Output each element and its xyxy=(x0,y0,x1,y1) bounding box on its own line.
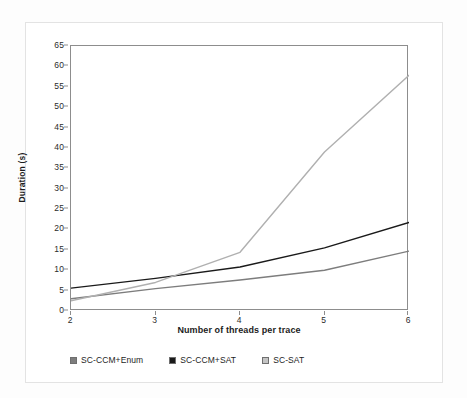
y-axis-ticks: 05101520253035404550556065 xyxy=(40,45,68,310)
x-tick-label: 5 xyxy=(321,315,326,325)
chart-legend: SC-CCM+EnumSC-CCM+SATSC-SAT xyxy=(70,352,370,368)
legend-swatch-icon xyxy=(70,357,77,364)
series-line-sc-ccm-sat xyxy=(71,223,409,289)
y-tick-mark xyxy=(64,289,68,290)
legend-item[interactable]: SC-SAT xyxy=(262,355,304,365)
chart-figure: Duration (s) 05101520253035404550556065 … xyxy=(0,0,467,398)
y-tick-label: 35 xyxy=(54,162,64,172)
y-tick-label: 55 xyxy=(54,81,64,91)
legend-label: SC-CCM+Enum xyxy=(81,355,143,365)
y-tick-mark xyxy=(64,310,68,311)
y-tick-label: 65 xyxy=(54,40,64,50)
legend-label: SC-SAT xyxy=(273,355,304,365)
x-tick-label: 2 xyxy=(68,315,73,325)
y-tick-label: 20 xyxy=(54,223,64,233)
y-tick-label: 50 xyxy=(54,101,64,111)
x-tick-mark xyxy=(407,311,408,315)
x-tick-mark xyxy=(324,311,325,315)
y-tick-label: 40 xyxy=(54,142,64,152)
y-tick-label: 60 xyxy=(54,60,64,70)
y-tick-label: 30 xyxy=(54,183,64,193)
y-tick-label: 10 xyxy=(54,264,64,274)
y-tick-mark xyxy=(64,208,68,209)
x-tick-mark xyxy=(239,311,240,315)
series-line-sc-ccm-enum xyxy=(71,251,409,299)
plot-lines xyxy=(71,46,409,311)
x-tick-label: 3 xyxy=(152,315,157,325)
y-tick-mark xyxy=(64,126,68,127)
y-tick-label: 25 xyxy=(54,203,64,213)
plot-area xyxy=(70,45,408,310)
y-tick-mark xyxy=(64,167,68,168)
legend-swatch-icon xyxy=(262,357,269,364)
x-tick-label: 6 xyxy=(406,315,411,325)
y-tick-label: 15 xyxy=(54,244,64,254)
y-tick-mark xyxy=(64,146,68,147)
y-tick-label: 45 xyxy=(54,122,64,132)
y-tick-mark xyxy=(64,85,68,86)
y-tick-mark xyxy=(64,228,68,229)
x-tick-mark xyxy=(155,311,156,315)
y-tick-mark xyxy=(64,106,68,107)
x-tick-label: 4 xyxy=(237,315,242,325)
y-tick-mark xyxy=(64,45,68,46)
y-tick-mark xyxy=(64,269,68,270)
legend-item[interactable]: SC-CCM+Enum xyxy=(70,355,143,365)
y-tick-mark xyxy=(64,65,68,66)
x-axis-title: Number of threads per trace xyxy=(70,325,408,335)
y-axis-title: Duration (s) xyxy=(17,45,31,310)
legend-item[interactable]: SC-CCM+SAT xyxy=(169,355,236,365)
y-tick-mark xyxy=(64,187,68,188)
legend-swatch-icon xyxy=(169,357,176,364)
y-tick-mark xyxy=(64,248,68,249)
legend-label: SC-CCM+SAT xyxy=(180,355,236,365)
x-tick-mark xyxy=(70,311,71,315)
